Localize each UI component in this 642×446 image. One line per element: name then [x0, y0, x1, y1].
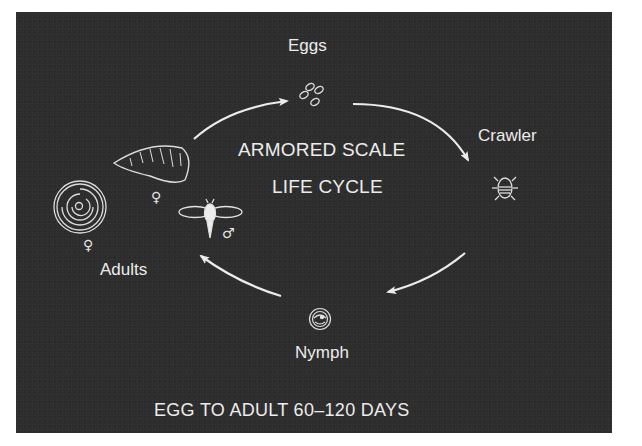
nymph-icon	[310, 309, 331, 330]
diagram-title-line2: LIFE CYCLE	[272, 176, 383, 198]
arrow-nymph-to-adults	[201, 256, 281, 296]
stage-label-nymph: Nymph	[295, 343, 349, 363]
female-symbol-oyster: ♀	[151, 190, 161, 204]
duration-caption: EGG TO ADULT 60–120 DAYS	[154, 400, 410, 421]
male-symbol: ♂	[222, 226, 235, 240]
female-symbol-round: ♀	[83, 238, 93, 252]
diagram-title-line1: ARMORED SCALE	[238, 139, 405, 161]
diagram-artwork	[0, 0, 642, 446]
stage-label-crawler: Crawler	[478, 126, 537, 146]
female-oyster-scale-icon	[114, 146, 189, 182]
eggs-icon	[299, 82, 325, 107]
arrow-adults-to-eggs	[194, 101, 287, 139]
crawler-icon	[492, 177, 518, 200]
arrow-crawler-to-nymph	[388, 253, 465, 292]
stage-label-eggs: Eggs	[288, 36, 327, 56]
stage-label-adults: Adults	[100, 260, 147, 280]
female-round-scale-icon	[54, 181, 106, 233]
